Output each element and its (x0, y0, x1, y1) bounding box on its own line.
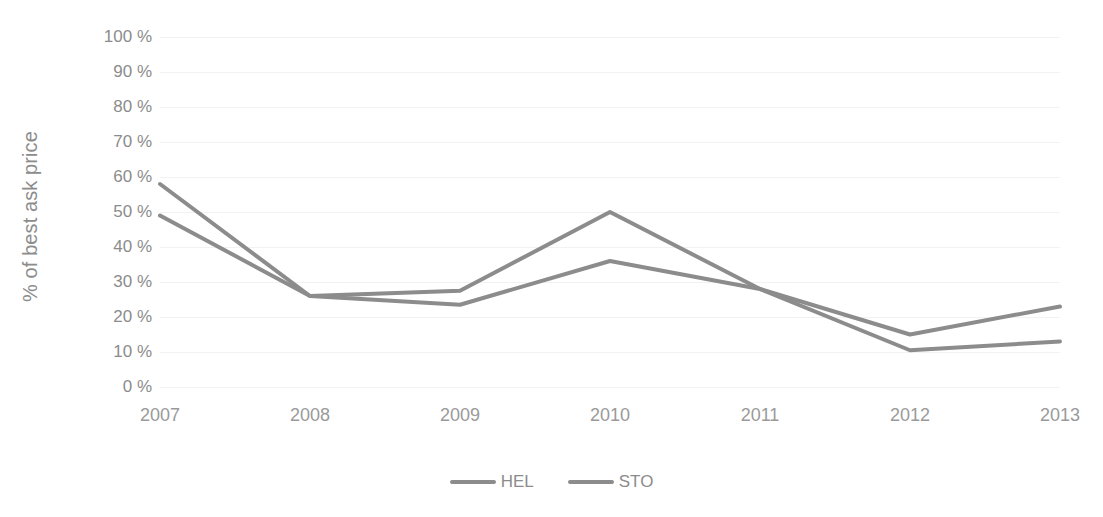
y-axis-tick-labels: 0 %10 %20 %30 %40 %50 %60 %70 %80 %90 %1… (80, 0, 152, 517)
legend-label: STO (619, 472, 654, 492)
series-line-hel (160, 212, 1060, 335)
series-line-sto (160, 184, 1060, 350)
legend-item-sto[interactable]: STO (568, 472, 654, 492)
chart-legend: HELSTO (0, 472, 1103, 492)
gridline (160, 387, 1060, 388)
y-axis-tick-label: 70 % (82, 133, 152, 150)
legend-line-icon (568, 480, 614, 484)
x-axis-tick-label: 2013 (1000, 405, 1103, 426)
y-axis-tick-label: 40 % (82, 238, 152, 255)
y-axis-tick-label: 60 % (82, 168, 152, 185)
legend-label: HEL (501, 472, 534, 492)
y-axis-title: % of best ask price (19, 92, 42, 342)
y-axis-tick-label: 0 % (82, 378, 152, 395)
x-axis-tick-labels: 2007200820092010201120122013 (160, 405, 1060, 435)
x-axis-tick-label: 2011 (700, 405, 820, 426)
y-axis-tick-label: 80 % (82, 98, 152, 115)
y-axis-tick-label: 90 % (82, 63, 152, 80)
x-axis-tick-label: 2012 (850, 405, 970, 426)
y-axis-tick-label: 10 % (82, 343, 152, 360)
series-lines (160, 37, 1060, 387)
legend-line-icon (450, 480, 496, 484)
x-axis-tick-label: 2010 (550, 405, 670, 426)
y-axis-tick-label: 20 % (82, 308, 152, 325)
line-chart: % of best ask price 0 %10 %20 %30 %40 %5… (0, 0, 1103, 517)
plot-area (160, 37, 1060, 387)
y-axis-tick-label: 30 % (82, 273, 152, 290)
x-axis-tick-label: 2007 (100, 405, 220, 426)
x-axis-tick-label: 2009 (400, 405, 520, 426)
x-axis-tick-label: 2008 (250, 405, 370, 426)
y-axis-tick-label: 100 % (82, 28, 152, 45)
y-axis-tick-label: 50 % (82, 203, 152, 220)
legend-item-hel[interactable]: HEL (450, 472, 534, 492)
